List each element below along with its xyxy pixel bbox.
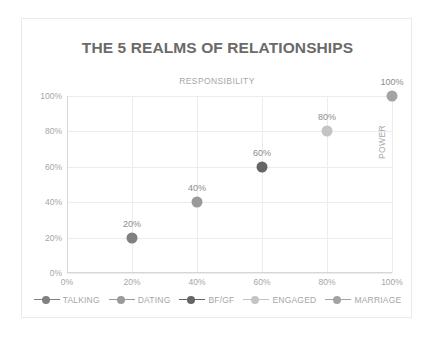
gridline-horizontal (67, 167, 392, 168)
y-axis-tick-label: 80% (45, 126, 62, 136)
legend-marker-bf-gf (179, 294, 205, 305)
legend-label-talking: TALKING (63, 295, 100, 305)
y-axis-tick-label: 40% (45, 197, 62, 207)
legend-marker-talking (34, 294, 60, 305)
y-axis-tick-label: 20% (45, 233, 62, 243)
x-axis-line (67, 272, 392, 273)
y-axis-tick-label: 60% (45, 162, 62, 172)
gridline-vertical (327, 96, 328, 273)
x-axis-tick-label: 80% (318, 277, 335, 287)
legend-dot-icon (187, 296, 195, 304)
chart-frame: THE 5 REALMS OF RELATIONSHIPS RESPONSIBI… (21, 18, 412, 318)
gridline-horizontal (67, 238, 392, 239)
data-label-marriage: 100% (380, 77, 403, 87)
chart-legend: TALKINGDATINGBF/GFENGAGEDMARRIAGE (22, 294, 413, 305)
data-point-talking[interactable] (127, 232, 138, 243)
x-axis-tick-label: 60% (253, 277, 270, 287)
legend-item-talking[interactable]: TALKING (34, 294, 100, 305)
data-point-marriage[interactable] (387, 91, 398, 102)
legend-dot-icon (333, 296, 341, 304)
data-label-engaged: 80% (318, 112, 336, 122)
data-label-dating: 40% (188, 183, 206, 193)
data-point-engaged[interactable] (322, 126, 333, 137)
gridline-vertical (132, 96, 133, 273)
gridline-vertical (262, 96, 263, 273)
legend-dot-icon (117, 296, 125, 304)
x-axis-tick-label: 40% (188, 277, 205, 287)
chart-title: THE 5 REALMS OF RELATIONSHIPS (22, 39, 413, 57)
legend-item-marriage[interactable]: MARRIAGE (325, 294, 401, 305)
legend-marker-marriage (325, 294, 351, 305)
legend-item-dating[interactable]: DATING (109, 294, 171, 305)
data-label-talking: 20% (123, 219, 141, 229)
gridline-horizontal (67, 202, 392, 203)
data-point-dating[interactable] (192, 197, 203, 208)
legend-marker-dating (109, 294, 135, 305)
x-axis-tick-label: 100% (381, 277, 403, 287)
legend-label-bf-gf: BF/GF (208, 295, 234, 305)
legend-label-dating: DATING (138, 295, 171, 305)
plot-area: 0%20%40%60%80%100% 0%20%40%60%80%100% 20… (67, 96, 392, 273)
legend-label-marriage: MARRIAGE (354, 295, 401, 305)
legend-item-bf-gf[interactable]: BF/GF (179, 294, 234, 305)
legend-label-engaged: ENGAGED (272, 295, 316, 305)
data-point-bf-gf[interactable] (257, 161, 268, 172)
gridline-horizontal (67, 96, 392, 97)
legend-dot-icon (42, 296, 50, 304)
legend-item-engaged[interactable]: ENGAGED (243, 294, 316, 305)
legend-dot-icon (251, 296, 259, 304)
x-axis-tick-label: 20% (123, 277, 140, 287)
y-axis-tick-label: 100% (40, 91, 62, 101)
data-label-bf-gf: 60% (253, 148, 271, 158)
gridline-vertical (392, 96, 393, 273)
y-axis-line (67, 96, 68, 273)
gridline-horizontal (67, 131, 392, 132)
legend-marker-engaged (243, 294, 269, 305)
x-axis-tick-label: 0% (61, 277, 73, 287)
x-axis-title: RESPONSIBILITY (67, 76, 367, 86)
gridline-horizontal (67, 273, 392, 274)
